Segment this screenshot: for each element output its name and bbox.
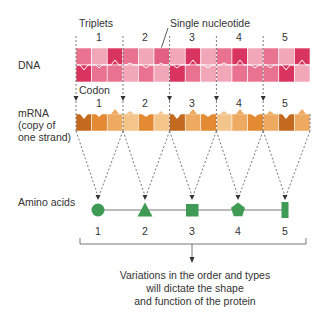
triplets-label: Triplets bbox=[79, 17, 113, 29]
dna-label: DNA bbox=[18, 59, 40, 71]
protein-bracket bbox=[80, 238, 306, 244]
amino-acid-numbers: 1 2 3 4 5 bbox=[95, 225, 288, 237]
amino-acid-rectangle-icon bbox=[282, 202, 289, 218]
svg-text:1: 1 bbox=[95, 225, 101, 237]
codon-numbers: 1 2 3 4 5 bbox=[96, 97, 288, 109]
caption-line-2: will dictate the shape bbox=[145, 282, 244, 294]
amino-acid-circle-icon bbox=[92, 204, 105, 217]
amino-acids-label: Amino acids bbox=[18, 196, 75, 208]
triplet-numbers: 1 2 3 4 5 bbox=[96, 31, 288, 43]
mrna-strand bbox=[76, 114, 310, 131]
translation-arrows bbox=[76, 131, 310, 196]
amino-acid-square-icon bbox=[186, 204, 199, 217]
svg-text:5: 5 bbox=[282, 225, 288, 237]
result-arrowhead-icon bbox=[190, 257, 195, 263]
svg-text:3: 3 bbox=[189, 97, 195, 109]
svg-text:3: 3 bbox=[189, 31, 195, 43]
svg-text:2: 2 bbox=[142, 31, 148, 43]
svg-text:4: 4 bbox=[236, 31, 242, 43]
mrna-label: mRNA bbox=[18, 107, 49, 119]
svg-text:4: 4 bbox=[236, 97, 242, 109]
svg-text:2: 2 bbox=[142, 97, 148, 109]
svg-text:5: 5 bbox=[282, 31, 288, 43]
codon-label: Codon bbox=[79, 84, 110, 96]
mrna-sublabel-1: (copy of bbox=[18, 119, 55, 131]
svg-text:2: 2 bbox=[142, 225, 148, 237]
gene-to-protein-diagram: Triplets Single nucleotide 1 2 3 4 5 DNA bbox=[0, 0, 326, 315]
svg-text:1: 1 bbox=[96, 31, 102, 43]
caption-line-1: Variations in the order and types bbox=[120, 269, 270, 281]
svg-text:1: 1 bbox=[96, 97, 102, 109]
amino-acid-triangle-icon bbox=[138, 203, 153, 217]
single-nucleotide-label: Single nucleotide bbox=[170, 17, 250, 29]
caption-line-3: and function of the protein bbox=[134, 295, 256, 307]
mrna-base-bumps bbox=[111, 109, 306, 114]
translation-arrowheads bbox=[96, 195, 288, 200]
mrna-sublabel-2: one strand) bbox=[18, 131, 71, 143]
svg-text:3: 3 bbox=[189, 225, 195, 237]
svg-text:4: 4 bbox=[235, 225, 241, 237]
svg-text:5: 5 bbox=[282, 97, 288, 109]
amino-acid-pentagon-icon bbox=[231, 203, 245, 217]
